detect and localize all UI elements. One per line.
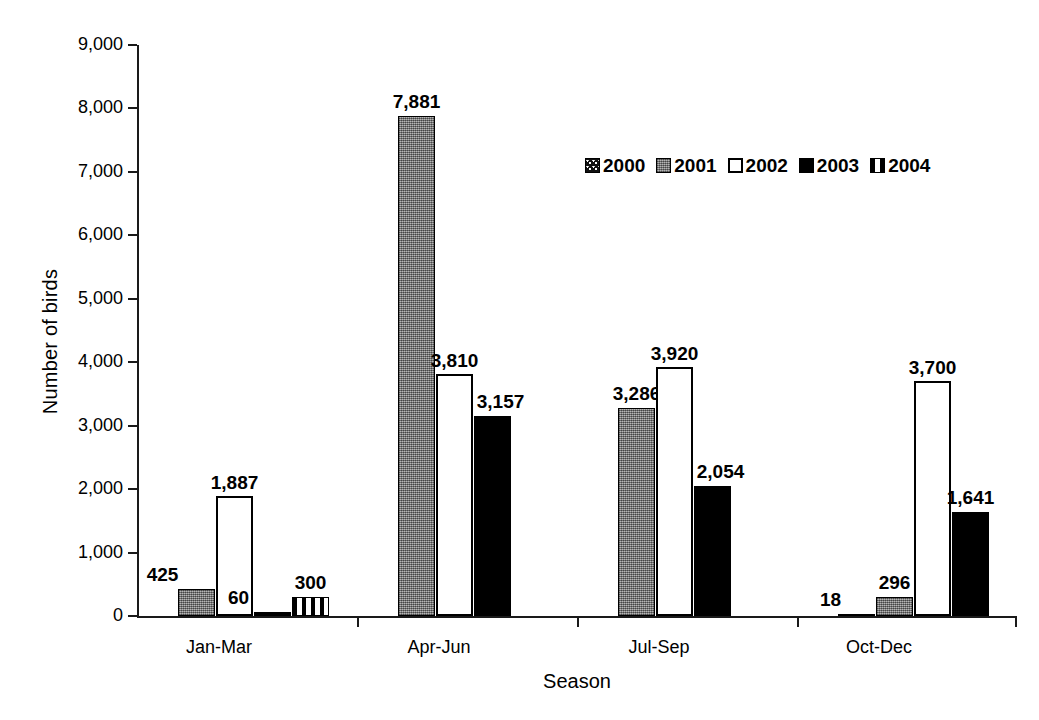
y-axis-tick-mark [128,552,137,554]
legend-swatch-icon [870,158,885,173]
x-axis-tick-mark [577,617,579,627]
bar-jan-mar-2003[interactable]: 60 [254,612,291,616]
legend-swatch-icon [656,158,671,173]
y-axis-tick-mark [128,44,137,46]
bar-value-label: 7,881 [393,91,441,113]
bar-jul-sep-2003[interactable]: 2,054 [694,486,731,616]
bar-apr-jun-2001[interactable]: 7,881 [398,116,435,616]
bar-oct-dec-2000[interactable]: 18 [838,614,875,617]
y-axis-tick-mark [128,425,137,427]
y-axis-tick-label: 2,000 [35,478,123,499]
bar-value-label: 60 [228,587,249,609]
bar-value-label: 425 [147,564,179,586]
y-axis-tick-mark [128,298,137,300]
y-axis-tick-mark [128,234,137,236]
legend-label: 2003 [817,156,859,175]
y-axis-tick-label: 4,000 [35,351,123,372]
legend-item-2004[interactable]: 2004 [870,156,930,175]
legend-item-2003[interactable]: 2003 [799,156,859,175]
bar-jul-sep-2001[interactable]: 3,286 [618,408,655,616]
x-axis-tick-mark [1015,617,1017,627]
y-axis-tick-label: 8,000 [35,97,123,118]
x-axis-title: Season [137,670,1017,693]
y-axis-tick-label: 6,000 [35,224,123,245]
legend-swatch-icon [728,158,743,173]
bar-jan-mar-2001[interactable]: 425 [178,589,215,616]
y-axis-tick-mark [128,615,137,617]
bar-value-label: 3,810 [431,350,479,372]
legend-item-2001[interactable]: 2001 [656,156,716,175]
bar-jan-mar-2004[interactable]: 300 [292,597,329,616]
x-axis-tick-mark [357,617,359,627]
bar-value-label: 2,054 [697,461,745,483]
x-axis-category-label: Jan-Mar [186,637,252,658]
legend-item-2002[interactable]: 2002 [728,156,788,175]
bar-oct-dec-2001[interactable]: 296 [876,597,913,616]
y-axis-line [137,45,139,617]
y-axis-tick-mark [128,107,137,109]
y-axis-tick-label: 1,000 [35,542,123,563]
y-axis-tick-label: 9,000 [35,34,123,55]
bar-value-label: 300 [295,572,327,594]
bar-value-label: 296 [879,572,911,594]
x-axis-category-label: Oct-Dec [846,637,912,658]
bar-value-label: 1,641 [947,487,995,509]
y-axis-tick-label: 3,000 [35,415,123,436]
legend-label: 2002 [746,156,788,175]
bar-oct-dec-2003[interactable]: 1,641 [952,512,989,616]
bar-value-label: 18 [820,589,841,611]
legend-label: 2001 [674,156,716,175]
x-axis-category-label: Apr-Jun [407,637,470,658]
x-axis-tick-mark [797,617,799,627]
chart-legend: 20002001200220032004 [585,156,941,175]
legend-swatch-icon [585,158,600,173]
bar-oct-dec-2002[interactable]: 3,700 [914,381,951,616]
y-axis-tick-label: 7,000 [35,161,123,182]
bar-value-label: 3,700 [909,357,957,379]
y-axis-tick-mark [128,171,137,173]
bar-apr-jun-2003[interactable]: 3,157 [474,416,511,616]
y-axis-tick-label: 5,000 [35,288,123,309]
bar-value-label: 3,157 [477,391,525,413]
bar-value-label: 3,920 [651,343,699,365]
y-axis-tick-mark [128,361,137,363]
bar-chart-figure: Number of birds Season 01,0002,0003,0004… [0,0,1039,720]
legend-item-2000[interactable]: 2000 [585,156,645,175]
legend-label: 2000 [603,156,645,175]
plot-area: 01,0002,0003,0004,0005,0006,0007,0008,00… [137,45,1017,617]
y-axis-tick-label: 0 [35,605,123,626]
bar-jul-sep-2002[interactable]: 3,920 [656,367,693,616]
x-axis-category-label: Jul-Sep [628,637,689,658]
legend-label: 2004 [888,156,930,175]
y-axis-tick-mark [128,488,137,490]
bar-value-label: 3,286 [613,383,661,405]
bar-value-label: 1,887 [211,472,259,494]
bar-apr-jun-2002[interactable]: 3,810 [436,374,473,616]
legend-swatch-icon [799,158,814,173]
